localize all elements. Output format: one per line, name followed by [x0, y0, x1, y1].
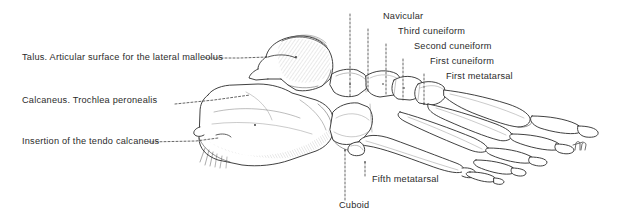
label-second-cuneiform: Second cuneiform — [414, 42, 492, 51]
figure-canvas: Talus. Articular surface for the lateral… — [0, 0, 622, 218]
leader-calcaneus-trochlea — [175, 95, 250, 104]
label-calcaneus-trochlea-peronealis: Calcaneus. Trochlea peronealis — [22, 96, 157, 105]
label-navicular: Navicular — [383, 12, 423, 21]
label-fifth-metatarsal: Fifth metatarsal — [372, 175, 439, 184]
label-first-metatarsal: First metatarsal — [446, 72, 513, 81]
label-cuboid: Cuboid — [339, 201, 369, 210]
label-insertion-tendo-calcaneus: Insertion of the tendo calcaneus — [22, 137, 159, 146]
label-talus: Talus. Articular surface for the lateral… — [22, 53, 223, 62]
label-first-cuneiform: First cuneiform — [430, 57, 494, 66]
leader-lines — [0, 0, 622, 218]
label-third-cuneiform: Third cuneiform — [398, 27, 465, 36]
